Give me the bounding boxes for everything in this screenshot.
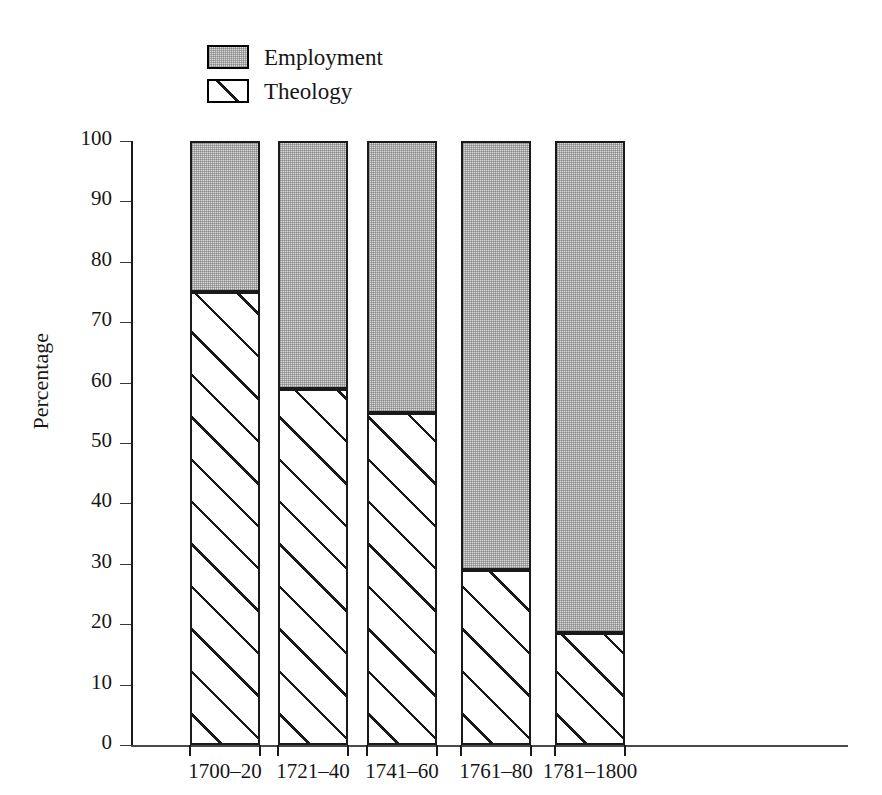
bar-segment-employment	[367, 141, 437, 413]
y-tick: 60	[120, 383, 131, 384]
x-tick	[277, 745, 279, 756]
y-tick-label: 20	[91, 611, 112, 632]
y-tick: 50	[120, 443, 131, 444]
y-tick: 100	[120, 141, 131, 142]
y-tick: 40	[120, 503, 131, 504]
y-tick-label: 80	[91, 249, 112, 270]
bar-segment-theology	[555, 633, 625, 745]
x-tick	[436, 745, 438, 756]
bar-stack	[278, 141, 348, 745]
x-axis-line	[131, 745, 848, 747]
legend-item-employment: Employment	[207, 40, 537, 74]
y-tick: 80	[120, 262, 131, 263]
caption-strip	[0, 782, 882, 795]
y-tick: 30	[120, 564, 131, 565]
bar-segment-theology	[461, 570, 531, 745]
x-tick	[624, 745, 626, 756]
bar-stack	[461, 141, 531, 745]
x-tick	[259, 745, 261, 756]
chart-legend: Employment Theology	[207, 40, 537, 108]
bar-segment-employment	[555, 141, 625, 633]
x-tick	[366, 745, 368, 756]
y-tick: 10	[120, 685, 131, 686]
bar-stack	[190, 141, 260, 745]
x-tick	[530, 745, 532, 756]
x-tick	[460, 745, 462, 756]
y-tick-label: 40	[91, 490, 112, 511]
y-tick-label: 30	[91, 551, 112, 572]
x-tick	[347, 745, 349, 756]
y-tick-label: 100	[81, 128, 113, 149]
y-tick: 90	[120, 201, 131, 202]
legend-label-theology: Theology	[264, 80, 352, 103]
y-axis-title: Percentage	[30, 133, 52, 333]
x-axis-category-label: 1781–1800	[520, 761, 660, 782]
bar-segment-employment	[461, 141, 531, 570]
legend-label-employment: Employment	[264, 46, 383, 69]
y-axis-line	[131, 141, 133, 745]
bar-segment-employment	[190, 141, 260, 292]
legend-swatch-stipple-icon	[207, 45, 249, 69]
legend-item-theology: Theology	[207, 74, 537, 108]
y-tick: 20	[120, 624, 131, 625]
y-tick-label: 0	[102, 732, 113, 753]
bar-segment-theology	[367, 413, 437, 745]
bar-segment-theology	[190, 292, 260, 745]
x-tick	[554, 745, 556, 756]
bar-segment-employment	[278, 141, 348, 389]
legend-swatch-hatch-icon	[207, 79, 249, 103]
y-axis-title-text: Percentage	[30, 333, 52, 430]
bar-stack	[367, 141, 437, 745]
y-tick-label: 70	[91, 309, 112, 330]
y-tick-label: 90	[91, 188, 112, 209]
y-tick: 0	[120, 745, 131, 746]
y-tick-label: 50	[91, 430, 112, 451]
bar-stack	[555, 141, 625, 745]
plot-area: 0102030405060708090100 1700–201721–40174…	[131, 141, 848, 745]
figure-container: Employment Theology Percentage 010203040…	[0, 0, 882, 795]
x-tick	[189, 745, 191, 756]
y-tick-label: 60	[91, 370, 112, 391]
y-tick-label: 10	[91, 672, 112, 693]
bar-segment-theology	[278, 389, 348, 745]
y-tick: 70	[120, 322, 131, 323]
